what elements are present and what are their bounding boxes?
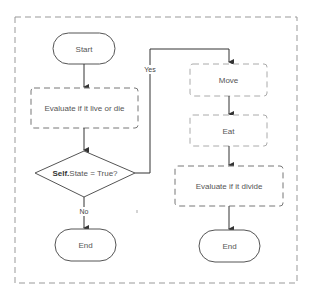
start-node[interactable]: Start: [53, 33, 115, 64]
evaluate-divide-node[interactable]: Evaluate if it divide: [175, 166, 283, 206]
end-left-node[interactable]: End: [55, 229, 116, 261]
end-right-node[interactable]: End: [199, 230, 260, 262]
flowchart-canvas: Start Evaluate if it live or die Self.St…: [0, 0, 312, 299]
evaluate-live-label: Evaluate if it live or die: [44, 104, 125, 113]
eat-node[interactable]: Eat: [190, 115, 267, 146]
end-right-label: End: [222, 242, 236, 251]
evaluate-divide-label: Evaluate if it divide: [196, 182, 263, 191]
no-label: No: [80, 208, 89, 215]
decision-label: Self.State = True?: [52, 169, 118, 178]
stray-mark: [137, 210, 138, 213]
decision-node[interactable]: Self.State = True?: [35, 151, 135, 197]
end-left-label: End: [78, 241, 92, 250]
start-label: Start: [76, 45, 94, 54]
evaluate-live-node[interactable]: Evaluate if it live or die: [31, 88, 138, 128]
eat-label: Eat: [222, 127, 235, 136]
move-node[interactable]: Move: [190, 64, 267, 96]
yes-label: Yes: [144, 66, 156, 73]
move-label: Move: [219, 76, 239, 85]
